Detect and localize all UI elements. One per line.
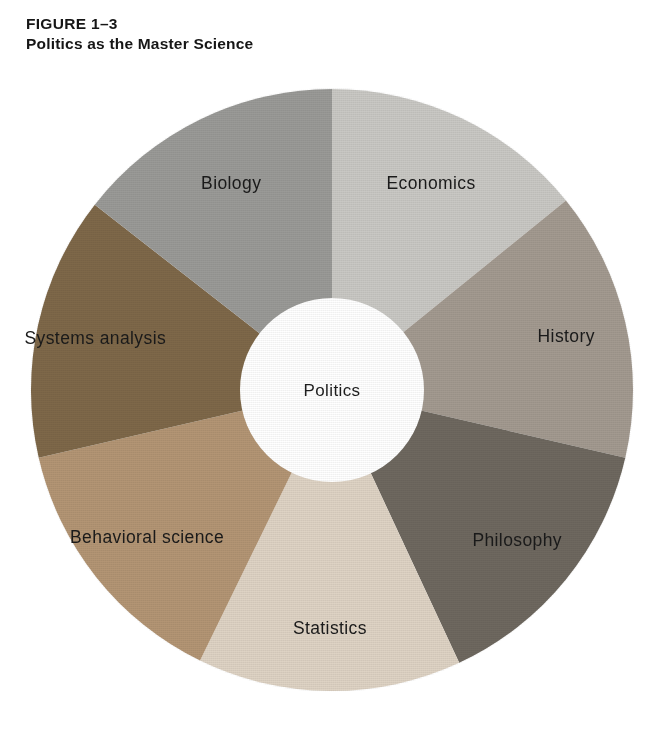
donut-chart: EconomicsHistoryPhilosophyStatisticsBeha… <box>30 88 634 692</box>
figure-caption: FIGURE 1–3 Politics as the Master Scienc… <box>26 14 586 55</box>
figure-title: Politics as the Master Science <box>26 34 586 54</box>
figure-number: FIGURE 1–3 <box>26 14 586 34</box>
center-hub-label: Politics <box>303 381 360 401</box>
